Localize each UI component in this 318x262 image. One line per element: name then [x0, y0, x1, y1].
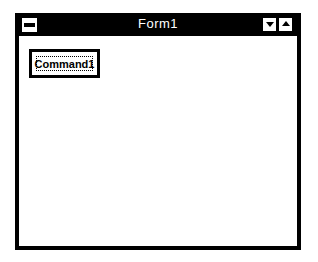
- maximize-arrow-icon: [282, 21, 290, 26]
- minimize-button[interactable]: [263, 18, 276, 31]
- form-client-area: Command1: [19, 36, 297, 246]
- maximize-button[interactable]: [279, 18, 292, 31]
- command1-label: Command1: [32, 58, 97, 70]
- command1-button[interactable]: Command1: [29, 49, 100, 78]
- form1-window: Form1 Command1: [15, 13, 301, 250]
- window-title: Form1: [15, 16, 301, 31]
- minimize-arrow-icon: [266, 22, 274, 27]
- title-bar[interactable]: Form1: [15, 13, 301, 36]
